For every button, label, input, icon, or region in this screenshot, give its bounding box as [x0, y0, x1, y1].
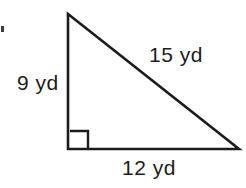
label-hypotenuse: 15 yd: [149, 44, 203, 65]
label-horizontal-leg: 12 yd: [122, 157, 176, 178]
scan-artifact-speck: [1, 26, 4, 32]
label-vertical-leg: 9 yd: [17, 72, 59, 93]
triangle-outline: [68, 14, 239, 149]
geometry-figure: 9 yd 15 yd 12 yd: [0, 0, 246, 188]
